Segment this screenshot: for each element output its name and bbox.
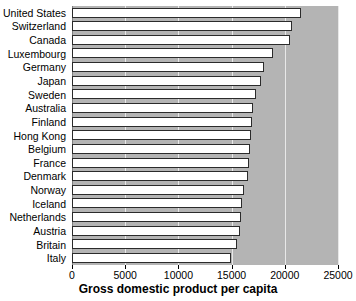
x-axis-tick-label: 10000	[164, 269, 193, 281]
bar	[72, 130, 251, 140]
y-axis-tick-label: Britain	[0, 240, 66, 251]
bar	[72, 239, 237, 249]
y-axis-tick-label: Germany	[0, 62, 66, 73]
bar-chart: United StatesSwitzerlandCanadaLuxembourg…	[0, 0, 356, 301]
bar	[72, 89, 256, 99]
bar-row	[72, 251, 338, 265]
bar	[72, 171, 248, 181]
bar-row	[72, 115, 338, 129]
y-axis-tick-label: Denmark	[0, 171, 66, 182]
x-axis-tick-label: 0	[69, 269, 75, 281]
bar-row	[72, 197, 338, 211]
bar-row	[72, 129, 338, 143]
y-axis-tick-label: France	[0, 158, 66, 169]
y-axis-tick-label: United States	[0, 8, 66, 19]
y-axis-tick-label: Japan	[0, 76, 66, 87]
bar-row	[72, 142, 338, 156]
bar	[72, 103, 253, 113]
y-axis-tick-label: Canada	[0, 35, 66, 46]
x-axis-tick-label: 15000	[217, 269, 246, 281]
bar	[72, 76, 261, 86]
bar-row	[72, 224, 338, 238]
bar-row	[72, 101, 338, 115]
bar	[72, 198, 242, 208]
gridline	[338, 6, 339, 265]
bar	[72, 144, 250, 154]
bar	[72, 35, 290, 45]
bar	[72, 48, 273, 58]
bar-row	[72, 20, 338, 34]
bar	[72, 185, 244, 195]
bar	[72, 117, 252, 127]
bar-row	[72, 61, 338, 75]
y-axis-tick-label: Norway	[0, 185, 66, 196]
y-axis-tick-label: Finland	[0, 117, 66, 128]
bar-row	[72, 156, 338, 170]
y-axis-tick-label: Netherlands	[0, 212, 66, 223]
x-axis-tick-label: 20000	[270, 269, 299, 281]
bar	[72, 253, 231, 263]
bar-row	[72, 88, 338, 102]
bar-row	[72, 33, 338, 47]
y-axis-tick-label: Hong Kong	[0, 131, 66, 142]
bar	[72, 62, 264, 72]
bar	[72, 212, 241, 222]
bar-row	[72, 183, 338, 197]
bar-row	[72, 170, 338, 184]
y-axis-tick-label: Switzerland	[0, 21, 66, 32]
y-axis-tick-label: Belgium	[0, 144, 66, 155]
y-axis-tick-label: Australia	[0, 103, 66, 114]
bar-row	[72, 6, 338, 20]
y-axis-tick-label: Sweden	[0, 90, 66, 101]
bar	[72, 226, 240, 236]
plot-area	[72, 6, 338, 265]
x-axis-tick-label: 5000	[114, 269, 137, 281]
y-axis-tick-label: Austria	[0, 226, 66, 237]
bar-row	[72, 47, 338, 61]
bar	[72, 158, 249, 168]
x-axis-tick-label: 25000	[323, 269, 352, 281]
y-axis-tick-label: Luxembourg	[0, 49, 66, 60]
bar-row	[72, 210, 338, 224]
y-axis-tick-label: Italy	[0, 253, 66, 264]
bar	[72, 8, 301, 18]
bar	[72, 21, 292, 31]
bar-row	[72, 238, 338, 252]
bar-row	[72, 74, 338, 88]
y-axis-tick-label: Iceland	[0, 199, 66, 210]
x-axis-title: Gross domestic product per capita	[0, 282, 356, 296]
